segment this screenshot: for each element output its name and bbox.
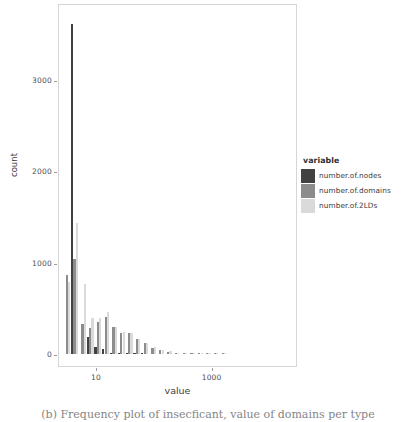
legend-swatch-0 [301, 169, 315, 183]
y-tick-label-2000: 2000 [22, 167, 52, 176]
bar-number-of-2LDs-17 [201, 353, 203, 354]
bar-number-of-2LDs-11 [154, 347, 156, 354]
legend-label-2: number.of.2LDs [319, 201, 377, 210]
x-axis-label: value [58, 385, 297, 396]
legend-title: variable [303, 156, 413, 165]
legend-label-1: number.of.domains [319, 186, 391, 195]
y-tick-label-1000: 1000 [22, 259, 52, 268]
bar-number-of-2LDs-7 [123, 332, 125, 354]
legend-item-2: number.of.2LDs [301, 198, 413, 213]
bar-number-of-2LDs-18 [208, 353, 210, 354]
legend: variable number.of.nodesnumber.of.domain… [301, 156, 413, 213]
bar-number-of-2LDs-16 [193, 353, 195, 354]
bar-number-of-2LDs-20 [224, 353, 226, 354]
y-tick-mark-1000 [54, 264, 57, 265]
bar-number-of-2LDs-10 [146, 343, 148, 354]
bar-number-of-2LDs-0 [68, 282, 70, 354]
bar-number-of-2LDs-12 [162, 350, 164, 354]
y-tick-label-3000: 3000 [22, 76, 52, 85]
x-tick-label-1000: 1000 [192, 373, 232, 382]
figure-caption: (b) Frequency plot of insecficant, value… [0, 408, 416, 422]
bar-number-of-2LDs-14 [177, 353, 179, 354]
legend-item-0: number.of.nodes [301, 168, 413, 183]
bar-number-of-2LDs-6 [115, 327, 117, 354]
x-tick-mark-1000 [212, 368, 213, 371]
x-tick-label-10: 10 [76, 373, 116, 382]
y-tick-label-0: 0 [22, 350, 52, 359]
legend-entries: number.of.nodesnumber.of.domainsnumber.o… [301, 168, 413, 213]
bar-number-of-2LDs-4 [99, 318, 101, 354]
y-axis-label: count [9, 135, 19, 195]
bar-number-of-2LDs-1 [76, 223, 78, 354]
bar-number-of-2LDs-15 [185, 353, 187, 354]
bar-number-of-2LDs-19 [216, 353, 218, 354]
legend-label-0: number.of.nodes [319, 171, 381, 180]
plot-panel [58, 4, 297, 367]
histogram-figure: count 0100020003000 101000 value variabl… [0, 0, 416, 422]
y-axis: count [6, 0, 20, 363]
bar-number-of-2LDs-8 [130, 333, 132, 354]
y-tick-mark-0 [54, 355, 57, 356]
bar-number-of-2LDs-3 [91, 318, 93, 354]
bar-number-of-2LDs-9 [138, 339, 140, 354]
y-tick-mark-3000 [54, 81, 57, 82]
legend-swatch-2 [301, 199, 315, 213]
legend-swatch-1 [301, 184, 315, 198]
x-tick-mark-10 [96, 368, 97, 371]
bar-number-of-2LDs-13 [169, 351, 171, 354]
bars-layer [59, 5, 296, 366]
bar-number-of-2LDs-5 [107, 312, 109, 354]
legend-item-1: number.of.domains [301, 183, 413, 198]
y-tick-mark-2000 [54, 172, 57, 173]
